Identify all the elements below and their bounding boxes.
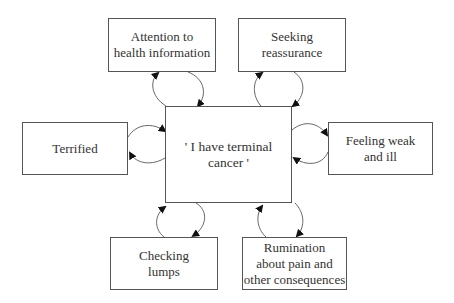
arrow-center-to-attention xyxy=(153,73,166,106)
arrow-rumination-to-center xyxy=(258,206,266,237)
node-rumination: Rumination about pain and other conseque… xyxy=(242,237,347,290)
node-terrified: Terrified xyxy=(22,122,128,175)
node-checking-lumps: Checking lumps xyxy=(110,237,218,290)
node-center-belief: ' I have terminal cancer ' xyxy=(165,106,292,203)
node-feeling-weak-and-ill: Feeling weak and ill xyxy=(328,122,433,175)
center-label: ' I have terminal cancer ' xyxy=(166,139,291,171)
node-seeking-reassurance: Seeking reassurance xyxy=(238,18,346,72)
arrow-reassurance-to-center xyxy=(293,72,303,106)
node-label: Checking lumps xyxy=(139,248,189,280)
arrow-center-to-reassurance xyxy=(254,73,262,106)
arrow-attention-to-center xyxy=(188,72,203,106)
node-attention-to-health-information: Attention to health information xyxy=(108,18,216,72)
arrow-weak-to-center xyxy=(294,152,328,163)
node-label: Rumination about pain and other conseque… xyxy=(244,240,345,288)
arrow-center-to-checking xyxy=(193,203,205,236)
arrow-center-to-rumination xyxy=(295,203,303,236)
arrow-checking-to-center xyxy=(157,207,165,237)
arrow-terrified-to-center xyxy=(128,125,165,137)
arrow-center-to-weak xyxy=(292,124,327,135)
node-label: Seeking reassurance xyxy=(262,29,323,61)
arrow-center-to-terrified xyxy=(130,153,165,163)
node-label: Attention to health information xyxy=(114,29,210,61)
node-label: Terrified xyxy=(52,141,97,157)
node-label: Feeling weak and ill xyxy=(346,133,416,165)
